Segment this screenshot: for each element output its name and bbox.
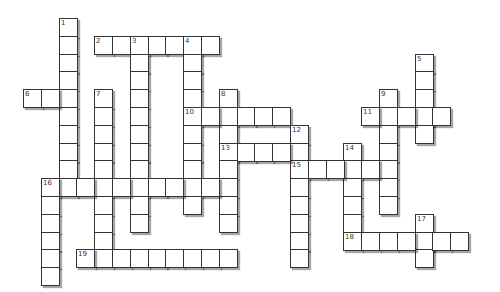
grid-cell[interactable] [165, 178, 184, 197]
grid-cell[interactable] [130, 71, 149, 90]
grid-cell[interactable] [343, 214, 362, 233]
grid-cell[interactable] [290, 178, 309, 197]
grid-cell[interactable] [41, 196, 60, 215]
grid-cell[interactable] [361, 232, 380, 251]
grid-cell[interactable] [379, 178, 398, 197]
grid-cell[interactable] [379, 125, 398, 144]
grid-cell[interactable] [94, 196, 113, 215]
grid-cell[interactable] [450, 232, 469, 251]
grid-cell[interactable] [94, 125, 113, 144]
grid-cell[interactable] [219, 249, 238, 268]
grid-cell[interactable] [397, 232, 416, 251]
grid-cell[interactable] [415, 125, 434, 144]
grid-cell[interactable] [415, 89, 434, 108]
grid-cell[interactable] [130, 214, 149, 233]
grid-cell[interactable] [130, 178, 149, 197]
grid-cell[interactable]: 11 [361, 107, 380, 126]
grid-cell[interactable] [432, 107, 451, 126]
grid-cell[interactable] [379, 107, 398, 126]
grid-cell[interactable] [290, 249, 309, 268]
grid-cell[interactable] [254, 107, 273, 126]
grid-cell[interactable] [183, 160, 202, 179]
grid-cell[interactable] [41, 214, 60, 233]
grid-cell[interactable] [130, 249, 149, 268]
grid-cell[interactable] [290, 196, 309, 215]
grid-cell[interactable] [361, 160, 380, 179]
grid-cell[interactable] [130, 107, 149, 126]
grid-cell[interactable] [201, 36, 220, 55]
grid-cell[interactable] [130, 196, 149, 215]
grid-cell[interactable] [76, 178, 95, 197]
grid-cell[interactable] [432, 232, 451, 251]
grid-cell[interactable] [397, 107, 416, 126]
grid-cell[interactable] [290, 214, 309, 233]
grid-cell[interactable] [112, 36, 131, 55]
grid-cell[interactable] [272, 107, 291, 126]
grid-cell[interactable] [219, 196, 238, 215]
grid-cell[interactable]: 1 [59, 18, 78, 37]
grid-cell[interactable] [219, 160, 238, 179]
grid-cell[interactable] [415, 71, 434, 90]
grid-cell[interactable] [343, 160, 362, 179]
grid-cell[interactable] [112, 249, 131, 268]
grid-cell[interactable] [183, 89, 202, 108]
grid-cell[interactable] [41, 249, 60, 268]
grid-cell[interactable] [94, 160, 113, 179]
grid-cell[interactable] [183, 196, 202, 215]
grid-cell[interactable] [308, 160, 327, 179]
grid-cell[interactable] [183, 249, 202, 268]
grid-cell[interactable]: 3 [130, 36, 149, 55]
grid-cell[interactable]: 2 [94, 36, 113, 55]
grid-cell[interactable] [343, 178, 362, 197]
grid-cell[interactable] [94, 214, 113, 233]
grid-cell[interactable] [415, 249, 434, 268]
grid-cell[interactable] [41, 89, 60, 108]
grid-cell[interactable] [59, 160, 78, 179]
grid-cell[interactable] [183, 178, 202, 197]
grid-cell[interactable] [59, 107, 78, 126]
grid-cell[interactable] [201, 178, 220, 197]
grid-cell[interactable] [343, 196, 362, 215]
grid-cell[interactable] [130, 125, 149, 144]
grid-cell[interactable] [130, 160, 149, 179]
grid-cell[interactable] [59, 36, 78, 55]
grid-cell[interactable] [94, 178, 113, 197]
grid-cell[interactable]: 6 [23, 89, 42, 108]
grid-cell[interactable] [201, 249, 220, 268]
grid-cell[interactable] [183, 71, 202, 90]
grid-cell[interactable]: 16 [41, 178, 60, 197]
grid-cell[interactable] [379, 232, 398, 251]
grid-cell[interactable]: 15 [290, 160, 309, 179]
grid-cell[interactable] [219, 178, 238, 197]
grid-cell[interactable]: 7 [94, 89, 113, 108]
grid-cell[interactable]: 10 [183, 107, 202, 126]
grid-cell[interactable]: 9 [379, 89, 398, 108]
grid-cell[interactable] [59, 125, 78, 144]
grid-cell[interactable]: 8 [219, 89, 238, 108]
clue-number: 12 [292, 126, 301, 134]
grid-cell[interactable] [219, 107, 238, 126]
grid-cell[interactable]: 4 [183, 36, 202, 55]
grid-cell[interactable] [165, 36, 184, 55]
grid-cell[interactable] [219, 214, 238, 233]
grid-cell[interactable] [112, 178, 131, 197]
grid-cell[interactable]: 18 [343, 232, 362, 251]
grid-cell[interactable] [201, 107, 220, 126]
grid-cell[interactable] [59, 89, 78, 108]
grid-cell[interactable] [59, 71, 78, 90]
grid-cell[interactable] [41, 267, 60, 286]
grid-cell[interactable] [379, 196, 398, 215]
grid-cell[interactable] [254, 143, 273, 162]
grid-cell[interactable] [326, 160, 345, 179]
grid-cell[interactable] [379, 160, 398, 179]
grid-cell[interactable] [130, 89, 149, 108]
grid-cell[interactable] [94, 249, 113, 268]
grid-cell[interactable] [183, 125, 202, 144]
grid-cell[interactable]: 19 [76, 249, 95, 268]
grid-cell[interactable] [219, 125, 238, 144]
grid-cell[interactable] [165, 249, 184, 268]
grid-cell[interactable]: 17 [415, 214, 434, 233]
grid-cell[interactable] [272, 143, 291, 162]
grid-cell[interactable] [94, 107, 113, 126]
grid-cell[interactable]: 12 [290, 125, 309, 144]
